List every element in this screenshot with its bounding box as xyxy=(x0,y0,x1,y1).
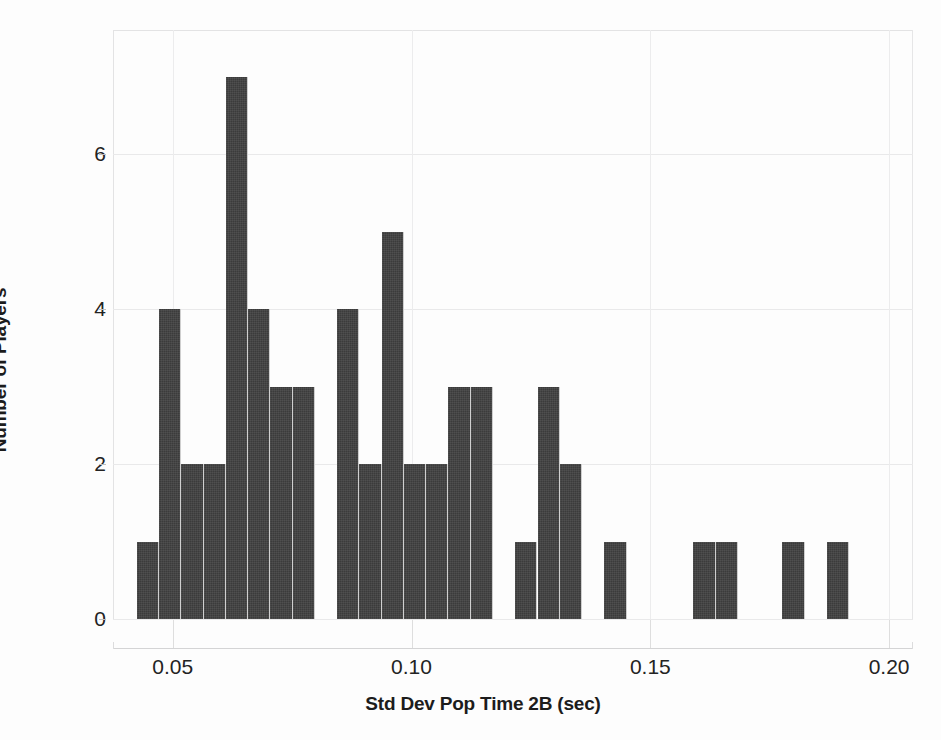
plot-frame-top xyxy=(113,30,913,31)
histogram-bar xyxy=(382,232,404,620)
y-tick-mark xyxy=(99,464,106,465)
x-axis-spine-cap-left xyxy=(113,642,114,649)
histogram-bar xyxy=(560,464,582,619)
x-axis-spine-cap-right xyxy=(912,642,913,649)
plot-frame-right xyxy=(912,30,913,619)
histogram-figure: Number of Players 0246 0.050.100.150.20 … xyxy=(0,0,941,740)
histogram-bar xyxy=(426,464,448,619)
histogram-bar xyxy=(337,309,359,619)
histogram-bar xyxy=(782,542,804,620)
plot-area xyxy=(113,30,913,619)
x-tick-label: 0.15 xyxy=(590,655,710,679)
histogram-bar xyxy=(471,387,493,620)
y-axis-tick-labels: 0246 xyxy=(0,30,106,619)
histogram-bar xyxy=(827,542,849,620)
histogram-bar xyxy=(226,77,248,620)
histogram-bar xyxy=(159,309,181,619)
histogram-bar xyxy=(293,387,315,620)
histogram-bar xyxy=(248,309,270,619)
x-tick-label: 0.10 xyxy=(352,655,472,679)
x-tick-mark xyxy=(650,620,651,648)
x-tick-mark xyxy=(173,620,174,648)
y-tick-label: 0 xyxy=(46,607,106,631)
y-tick-mark xyxy=(99,154,106,155)
histogram-bar xyxy=(515,542,537,620)
histogram-bar xyxy=(404,464,426,619)
y-tick-mark xyxy=(99,619,106,620)
x-tick-label: 0.20 xyxy=(829,655,941,679)
x-tick-mark xyxy=(412,620,413,648)
histogram-bar xyxy=(448,387,470,620)
x-axis-title: Std Dev Pop Time 2B (sec) xyxy=(0,693,941,715)
y-tick-mark xyxy=(99,309,106,310)
plot-frame-left xyxy=(113,30,114,619)
histogram-bar xyxy=(137,542,159,620)
x-tick-mark xyxy=(889,620,890,648)
histogram-bar xyxy=(538,387,560,620)
histogram-bar xyxy=(204,464,226,619)
gridline-x-0.15 xyxy=(650,30,651,619)
histogram-bar xyxy=(693,542,715,620)
x-tick-label: 0.05 xyxy=(113,655,233,679)
histogram-bar xyxy=(359,464,381,619)
x-axis-spine xyxy=(113,648,913,649)
histogram-bar xyxy=(270,387,292,620)
histogram-bar xyxy=(716,542,738,620)
y-tick-label: 4 xyxy=(46,297,106,321)
y-tick-label: 2 xyxy=(46,452,106,476)
y-tick-label: 6 xyxy=(46,142,106,166)
histogram-bar xyxy=(181,464,203,619)
gridline-y-0 xyxy=(113,619,913,620)
gridline-x-0.20 xyxy=(889,30,890,619)
histogram-bar xyxy=(604,542,626,620)
